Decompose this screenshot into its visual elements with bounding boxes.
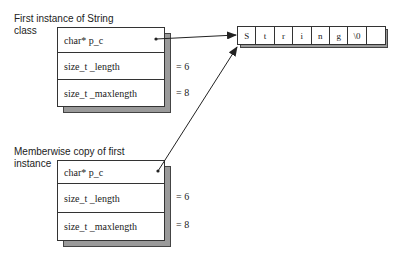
pointer-arrows xyxy=(0,0,399,256)
pointer-arrow-first xyxy=(154,35,236,41)
pointer-arrow-copy xyxy=(156,47,237,173)
